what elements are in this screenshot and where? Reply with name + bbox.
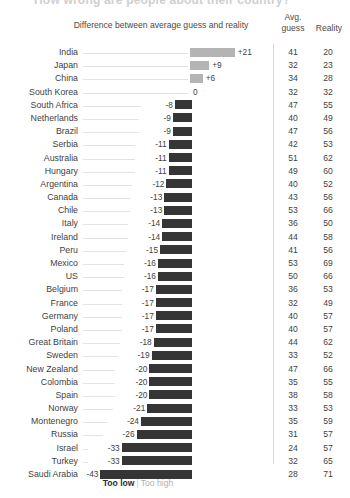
leader-line [83, 304, 122, 305]
reality-value: 60 [311, 166, 345, 176]
country-label: Montenegro [0, 416, 78, 426]
difference-value: 0 [193, 87, 198, 97]
reality-value: 53 [311, 284, 345, 294]
difference-value: -26 [105, 429, 135, 439]
table-row: Argentina-124052 [0, 178, 350, 191]
table-row: Sweden-193352 [0, 349, 350, 362]
bar-positive [190, 74, 203, 83]
table-row: Australia-115162 [0, 152, 350, 165]
bar-negative [141, 417, 192, 426]
leader-line [83, 172, 135, 173]
bar-negative [173, 127, 192, 136]
bar-negative [166, 179, 192, 188]
avg-guess-value: 36 [276, 218, 310, 228]
difference-value: +21 [238, 47, 252, 57]
difference-value: -14 [130, 232, 160, 242]
avg-guess-value: 53 [276, 205, 310, 215]
leader-line [83, 396, 115, 397]
country-label: Netherlands [0, 113, 78, 123]
bar-negative [156, 298, 192, 307]
country-label: France [0, 298, 78, 308]
country-label: India [0, 47, 78, 57]
reality-value: 56 [311, 245, 345, 255]
table-row: China+63428 [0, 72, 350, 85]
avg-guess-value: 24 [276, 443, 310, 453]
reality-value: 55 [311, 100, 345, 110]
chart-header: Difference between average guess and rea… [0, 12, 350, 46]
country-label: Serbia [0, 139, 78, 149]
country-label: Russia [0, 429, 78, 439]
avg-guess-value: 40 [276, 324, 310, 334]
difference-value: -11 [137, 139, 167, 149]
leader-line [83, 66, 188, 67]
avg-guess-value: 31 [276, 429, 310, 439]
reality-value: 56 [311, 126, 345, 136]
reality-value: 28 [311, 73, 345, 83]
country-label: Ireland [0, 232, 78, 242]
bar-negative [149, 364, 192, 373]
reality-value: 49 [311, 113, 345, 123]
table-row: Russia-263157 [0, 428, 350, 441]
difference-value: +9 [212, 60, 221, 70]
country-label: Belgium [0, 284, 78, 294]
avg-guess-value: 51 [276, 153, 310, 163]
country-label: Hungary [0, 166, 78, 176]
difference-value: -15 [128, 245, 158, 255]
leader-line [83, 317, 122, 318]
reality-value: 52 [311, 179, 345, 189]
bar-negative [158, 259, 192, 268]
difference-value: -19 [120, 350, 150, 360]
table-row: Serbia-114253 [0, 138, 350, 151]
avg-guess-value: 40 [276, 113, 310, 123]
reality-value: 57 [311, 311, 345, 321]
avg-guess-value: 35 [276, 416, 310, 426]
reality-value: 66 [311, 364, 345, 374]
leader-line [83, 198, 130, 199]
table-row: Brazil-94756 [0, 125, 350, 138]
bar-positive [190, 48, 235, 57]
avg-guess-value: 32 [276, 298, 310, 308]
reality-value: 57 [311, 429, 345, 439]
avg-guess-value: 53 [276, 258, 310, 268]
bar-negative [156, 285, 192, 294]
page-title: How wrong are people about their country… [34, 0, 290, 7]
avg-guess-value: 44 [276, 337, 310, 347]
table-row: Canada-134356 [0, 191, 350, 204]
difference-value: -33 [90, 456, 120, 466]
leader-line [83, 356, 118, 357]
leader-line [83, 370, 115, 371]
country-label: New Zealand [0, 364, 78, 374]
leader-line [83, 383, 115, 384]
table-row: Israel-332457 [0, 442, 350, 455]
table-row: Poland-174057 [0, 323, 350, 336]
difference-value: -11 [137, 153, 167, 163]
avg-guess-value: 36 [276, 284, 310, 294]
table-row: New Zealand-204766 [0, 363, 350, 376]
header-difference-label: Difference between average guess and rea… [52, 20, 270, 30]
table-row: Spain-203858 [0, 389, 350, 402]
leader-line [83, 79, 188, 80]
avg-guess-value: 40 [276, 311, 310, 321]
country-label: Canada [0, 192, 78, 202]
difference-value: -17 [124, 284, 154, 294]
avg-guess-value: 32 [276, 87, 310, 97]
avg-guess-value: 42 [276, 139, 310, 149]
reality-value: 58 [311, 232, 345, 242]
table-row: Chile-135366 [0, 204, 350, 217]
reality-value: 66 [311, 205, 345, 215]
leader-line [83, 277, 124, 278]
country-label: South Korea [0, 87, 78, 97]
bar-negative [169, 153, 192, 162]
country-label: US [0, 271, 78, 281]
legend: Too low|Too high [0, 478, 276, 488]
table-row: Great Britain-184462 [0, 336, 350, 349]
reality-value: 66 [311, 271, 345, 281]
bar-negative [122, 443, 192, 452]
leader-line [83, 238, 128, 239]
country-label: Spain [0, 390, 78, 400]
difference-value: -24 [109, 416, 139, 426]
reality-value: 53 [311, 403, 345, 413]
country-label: South Africa [0, 100, 78, 110]
table-row: Italy-143650 [0, 217, 350, 230]
difference-value: -20 [117, 377, 147, 387]
